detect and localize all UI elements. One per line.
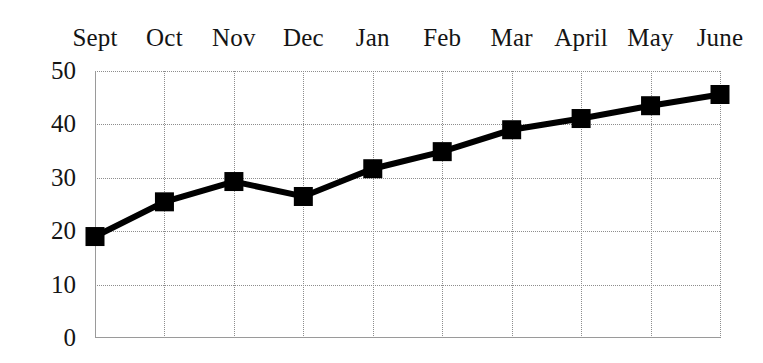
- x-axis-tick-label: Jan: [356, 22, 390, 54]
- x-axis-tick-label: Mar: [491, 22, 533, 54]
- x-axis-labels: SeptOctNovDecJanFebMarAprilMayJune: [0, 22, 763, 58]
- data-point-marker: [572, 109, 591, 128]
- data-point-marker: [502, 120, 521, 139]
- y-axis-labels: 01020304050: [0, 0, 88, 363]
- x-axis-tick-label: April: [554, 22, 608, 54]
- x-axis-tick-label: June: [697, 22, 744, 54]
- data-point-marker: [86, 227, 105, 246]
- x-axis-tick-label: May: [627, 22, 673, 54]
- x-axis-tick-label: Feb: [423, 22, 461, 54]
- y-axis-tick-label: 10: [51, 272, 76, 298]
- data-point-marker: [155, 192, 174, 211]
- data-point-marker: [711, 85, 730, 104]
- series-line: [95, 94, 720, 236]
- data-point-marker: [641, 96, 660, 115]
- data-point-marker: [433, 142, 452, 161]
- y-axis-tick-label: 0: [64, 325, 77, 351]
- plot-area: [95, 71, 720, 338]
- x-axis-tick-label: Dec: [283, 22, 324, 54]
- x-axis-tick-label: Nov: [212, 22, 256, 54]
- x-axis-tick-label: Oct: [146, 22, 183, 54]
- data-series: [95, 71, 720, 338]
- y-axis-tick-label: 20: [51, 218, 76, 244]
- y-axis-tick-label: 30: [51, 165, 76, 191]
- y-axis-tick-label: 40: [51, 111, 76, 137]
- y-axis-tick-label: 50: [51, 58, 76, 84]
- line-chart: SeptOctNovDecJanFebMarAprilMayJune 01020…: [0, 0, 763, 363]
- gridline-vertical: [720, 71, 721, 338]
- data-point-marker: [294, 187, 313, 206]
- data-point-marker: [224, 172, 243, 191]
- data-point-marker: [363, 159, 382, 178]
